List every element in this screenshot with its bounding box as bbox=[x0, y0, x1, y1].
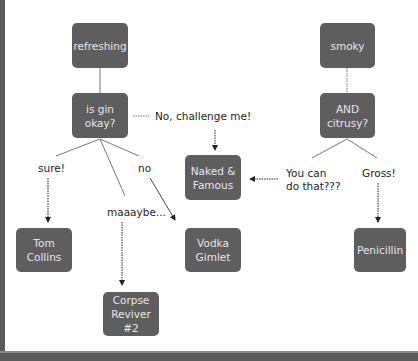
node-penicillin: Penicillin bbox=[354, 228, 406, 272]
node-smoky: smoky bbox=[320, 23, 375, 68]
node-and-citrusy: AND citrusy? bbox=[320, 93, 375, 138]
edge-label-challenge: No, challenge me! bbox=[155, 110, 251, 123]
edge-label-you-can: You can do that??? bbox=[286, 167, 340, 193]
node-corpse-reviver: Corpse Reviver #2 bbox=[103, 292, 159, 336]
node-vodka-gimlet: Vodka Gimlet bbox=[185, 228, 241, 272]
edge-label-maybe: maaaybe... bbox=[107, 206, 166, 219]
node-is-gin-okay: is gin okay? bbox=[72, 93, 128, 138]
edge-label-no: no bbox=[138, 162, 151, 175]
edge-label-sure: sure! bbox=[38, 162, 65, 175]
edge-gin-maybe bbox=[100, 139, 125, 196]
node-tom-collins: Tom Collins bbox=[16, 228, 72, 272]
edge-label-gross: Gross! bbox=[362, 167, 396, 180]
edge-citrusy-youcan bbox=[312, 139, 347, 158]
node-refreshing: refreshing bbox=[72, 23, 128, 68]
edge-citrusy-gross bbox=[347, 139, 377, 158]
edge-gin-sure bbox=[56, 139, 100, 156]
node-naked-famous: Naked & Famous bbox=[185, 155, 241, 200]
